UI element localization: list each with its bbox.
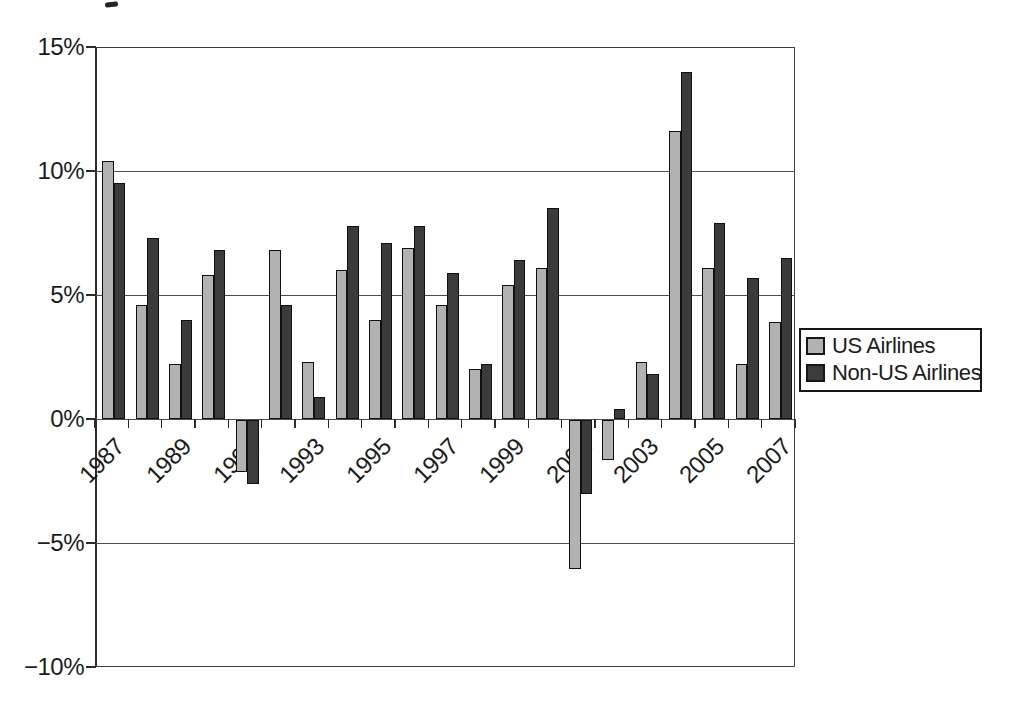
bar-non-us-airlines-1995 xyxy=(381,243,393,419)
x-axis-tick xyxy=(494,419,496,428)
bar-us-airlines-1989 xyxy=(169,364,181,419)
y-axis-label--5pct: −5% xyxy=(0,530,84,556)
bar-non-us-airlines-1996 xyxy=(414,226,426,419)
x-axis-tick xyxy=(161,419,163,428)
legend-box: US Airlines Non-US Airlines xyxy=(799,328,982,392)
legend-item-us-airlines: US Airlines xyxy=(806,333,978,359)
x-axis-tick xyxy=(728,419,730,428)
legend-label-us-airlines: US Airlines xyxy=(832,333,935,359)
bar-non-us-airlines-2002 xyxy=(614,409,626,419)
bar-us-airlines-2007 xyxy=(769,322,781,419)
bar-us-airlines-1988 xyxy=(136,305,148,419)
scan-artifact xyxy=(105,1,118,7)
bar-non-us-airlines-1991 xyxy=(247,420,259,484)
bar-non-us-airlines-1987 xyxy=(114,183,126,419)
bar-non-us-airlines-2006 xyxy=(747,278,759,419)
x-axis-tick xyxy=(94,419,96,428)
bar-chart-figure: 15%10%5%0%−5%−10%19871989199119931995199… xyxy=(0,0,1019,706)
x-axis-tick xyxy=(594,419,596,428)
x-axis-tick xyxy=(328,419,330,428)
bar-non-us-airlines-1998 xyxy=(481,364,493,419)
y-axis-tick--5pct xyxy=(86,542,96,544)
bar-us-airlines-1990 xyxy=(202,275,214,419)
y-axis-label-0pct: 0% xyxy=(0,406,84,432)
bar-us-airlines-1992 xyxy=(269,250,281,419)
bar-non-us-airlines-1999 xyxy=(514,260,526,419)
bar-us-airlines-1995 xyxy=(369,320,381,419)
bar-us-airlines-2003 xyxy=(636,362,648,419)
bar-us-airlines-2000 xyxy=(536,268,548,419)
x-axis-tick xyxy=(561,419,563,428)
y-axis-tick--10pct xyxy=(86,666,96,668)
bar-non-us-airlines-1994 xyxy=(347,226,359,419)
bar-non-us-airlines-2004 xyxy=(681,72,693,419)
x-axis-tick xyxy=(761,419,763,428)
y-axis-tick-5pct xyxy=(86,294,96,296)
x-axis-tick xyxy=(428,419,430,428)
bar-us-airlines-1997 xyxy=(436,305,448,419)
x-axis-tick xyxy=(694,419,696,428)
x-axis-tick xyxy=(628,419,630,428)
legend-swatch-us-airlines xyxy=(806,337,825,355)
bar-non-us-airlines-1990 xyxy=(214,250,226,419)
legend-item-non-us-airlines: Non-US Airlines xyxy=(806,360,978,386)
x-axis-tick xyxy=(194,419,196,428)
bar-non-us-airlines-1993 xyxy=(314,397,326,419)
bar-us-airlines-1999 xyxy=(502,285,514,419)
bar-us-airlines-2001 xyxy=(569,420,581,569)
bar-us-airlines-2006 xyxy=(736,364,748,419)
bar-non-us-airlines-2007 xyxy=(781,258,793,419)
bar-non-us-airlines-1989 xyxy=(181,320,193,419)
gridline--5pct xyxy=(95,543,795,544)
y-axis-label-15pct: 15% xyxy=(0,34,84,60)
x-axis-tick xyxy=(261,419,263,428)
y-axis-label--10pct: −10% xyxy=(0,654,84,680)
bar-non-us-airlines-1992 xyxy=(281,305,293,419)
bar-non-us-airlines-2001 xyxy=(581,420,593,494)
y-axis-label-10pct: 10% xyxy=(0,158,84,184)
x-axis-tick xyxy=(128,419,130,428)
legend-swatch-non-us-airlines xyxy=(806,364,825,382)
bar-us-airlines-1991 xyxy=(236,420,248,472)
x-axis-tick xyxy=(294,419,296,428)
x-axis-tick xyxy=(461,419,463,428)
y-axis-label-5pct: 5% xyxy=(0,282,84,308)
x-axis-tick xyxy=(528,419,530,428)
y-axis-tick-15pct xyxy=(86,46,96,48)
x-axis-tick xyxy=(661,419,663,428)
bar-non-us-airlines-1997 xyxy=(447,273,459,419)
x-axis-tick xyxy=(394,419,396,428)
bar-us-airlines-1993 xyxy=(302,362,314,419)
legend-label-non-us-airlines: Non-US Airlines xyxy=(832,360,981,386)
bar-non-us-airlines-1988 xyxy=(147,238,159,419)
bar-non-us-airlines-2003 xyxy=(647,374,659,419)
bar-us-airlines-2005 xyxy=(702,268,714,419)
gridline-0pct xyxy=(95,419,795,420)
bar-us-airlines-2004 xyxy=(669,131,681,419)
x-axis-tick xyxy=(794,419,796,428)
bar-non-us-airlines-2000 xyxy=(547,208,559,419)
x-axis-tick xyxy=(228,419,230,428)
x-axis-tick xyxy=(361,419,363,428)
bar-us-airlines-1998 xyxy=(469,369,481,419)
bar-us-airlines-1996 xyxy=(402,248,414,419)
bar-us-airlines-1987 xyxy=(102,161,114,419)
bar-non-us-airlines-2005 xyxy=(714,223,726,419)
bar-us-airlines-2002 xyxy=(602,420,614,460)
y-axis-tick-10pct xyxy=(86,170,96,172)
bar-us-airlines-1994 xyxy=(336,270,348,419)
